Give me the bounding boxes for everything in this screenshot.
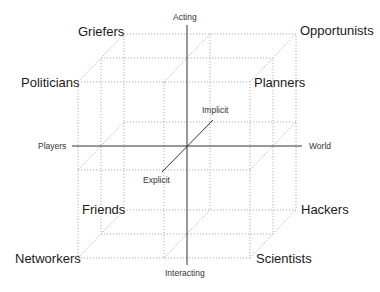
axis-label-interacting: Interacting [165, 269, 205, 278]
axis-label-players: Players [38, 142, 66, 151]
corner-label-griefers: Griefers [78, 25, 124, 38]
corner-label-networkers: Networkers [15, 252, 81, 265]
corner-label-hackers: Hackers [301, 203, 349, 216]
axes [72, 25, 302, 265]
corner-label-scientists: Scientists [256, 252, 312, 265]
corner-label-opportunists: Opportunists [300, 24, 374, 37]
axis-label-world: World [309, 142, 331, 151]
axis-label-implicit: Implicit [202, 106, 228, 115]
corner-label-planners: Planners [254, 76, 305, 89]
corner-label-politicians: Politicians [21, 76, 80, 89]
corner-label-friends: Friends [82, 203, 125, 216]
axis-label-acting: Acting [173, 13, 197, 22]
axis-label-explicit: Explicit [143, 176, 170, 185]
